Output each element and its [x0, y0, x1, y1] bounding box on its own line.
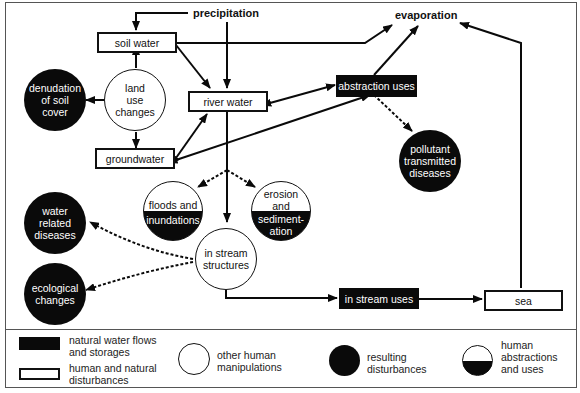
groundwater-box: groundwater	[95, 148, 175, 169]
legend-half-circle-icon	[462, 345, 493, 376]
floods-node: floods and inundations	[143, 181, 203, 241]
erosion-node: erosion and sediment- ation	[251, 181, 311, 241]
sea-box: sea	[484, 290, 563, 311]
legend-black-rect-icon	[19, 337, 60, 350]
legend-black-circle-icon	[329, 345, 360, 376]
evaporation-label: evaporation	[395, 9, 457, 21]
in-stream-structures-node: in streamstructures	[195, 228, 257, 290]
legend-human-natural-disturbances: human and naturaldisturbances	[69, 362, 157, 386]
in-stream-uses-box: in stream uses	[339, 288, 419, 309]
legend-natural-water-flows: natural water flowsand storages	[69, 334, 157, 358]
legend-white-circle-icon	[178, 343, 210, 375]
precipitation-label: precipitation	[193, 7, 259, 19]
soil-water-box: soil water	[97, 32, 177, 53]
legend-other-human-manipulations: other humanmanipulations	[217, 349, 282, 373]
land-use-changes-node: landusechanges	[104, 69, 166, 131]
abstraction-uses-box: abstraction uses	[336, 75, 417, 97]
legend-human-abstractions: humanabstractionsand uses	[501, 339, 558, 375]
legend-resulting-disturbances: resultingdisturbances	[367, 351, 427, 375]
pollutant-diseases-node: pollutanttransmitteddiseases	[399, 130, 461, 192]
legend-white-rect-icon	[19, 368, 60, 380]
river-water-box: river water	[188, 91, 268, 112]
water-related-diseases-node: waterrelateddiseases	[24, 192, 86, 254]
denudation-node: denudationof soilcover	[24, 69, 86, 131]
ecological-changes-node: ecologicalchanges	[24, 263, 86, 325]
